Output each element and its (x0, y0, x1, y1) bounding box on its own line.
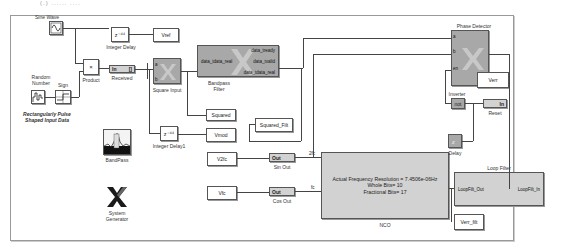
sin-out-gateway-block[interactable]: Out (269, 153, 295, 162)
wire (187, 71, 188, 115)
reset-label: Reset (488, 110, 501, 116)
wire (75, 63, 83, 64)
wire (313, 54, 451, 55)
vref-scope-block[interactable]: Vref (153, 28, 179, 42)
port-b: b (155, 77, 158, 82)
wire (445, 70, 446, 103)
wire (301, 68, 302, 141)
squared-filt-scope-block[interactable]: Squared_Filt (255, 118, 293, 132)
vmod-scope-block[interactable]: Vmod (206, 128, 236, 142)
wire (451, 188, 452, 222)
wire (71, 97, 79, 98)
random-number-label: Random Number (26, 74, 56, 86)
bandpass-filter-label: Bandpass Filter (204, 80, 234, 92)
wire (187, 115, 206, 116)
wire (129, 34, 153, 35)
random-signal-icon (32, 91, 44, 103)
wire (249, 124, 255, 125)
bandpass-filter-block[interactable]: data_tdata_real data_tready data_tvalid … (197, 45, 279, 77)
wire (79, 71, 83, 72)
wire (473, 103, 474, 141)
wire (75, 28, 76, 63)
system-generator-label: System Generator (100, 210, 134, 222)
integer-delay-label: Integer Delay (106, 44, 136, 50)
xilinx-logo-icon (460, 47, 486, 71)
squared-scope-block[interactable]: Squared (206, 109, 236, 121)
v2fc-scope-block[interactable]: V2fc (207, 152, 237, 166)
bpf-output-tdata: data_tdata_real (244, 70, 275, 75)
wire (489, 54, 509, 55)
received-label: Received (112, 75, 133, 81)
svg-text:z: z (451, 138, 455, 146)
product-block[interactable]: × (83, 59, 99, 75)
received-in-text: In (112, 66, 116, 72)
nco-port-2fc: 2fc (309, 151, 315, 156)
integer-delay1-label: Integer Delay1 (153, 143, 186, 149)
sign-label: Sign (58, 82, 68, 88)
nco-port-fc: fc (311, 185, 315, 190)
received-gateway-block[interactable]: In [] (109, 65, 135, 73)
loop-filter-label: Loop Filter (487, 165, 511, 171)
square-input-label: Square Input (153, 87, 182, 93)
nco-block[interactable]: Actual Frequency Resolution = 7.4506e-06… (321, 152, 449, 219)
delay-block[interactable]: z (448, 134, 462, 148)
square-input-block[interactable]: a b (153, 58, 181, 84)
pd-port-b: b (453, 49, 456, 54)
wire (149, 133, 160, 134)
integer-delay-block[interactable]: z⁻⁴⁴ (111, 27, 129, 42)
nco-fractional-bits: Fractional Bits= 17 (363, 189, 406, 196)
sign-function-icon (56, 91, 70, 103)
random-number-block[interactable] (31, 90, 45, 104)
wire (445, 70, 451, 71)
bandpass-spectrum-block[interactable] (103, 129, 131, 155)
top-caption-fragment: (.) ...... .... (40, 0, 81, 6)
wire (63, 28, 109, 29)
wire (237, 158, 269, 159)
integer-delay1-block[interactable]: z⁻⁴⁴ (160, 126, 178, 141)
wire (462, 141, 473, 142)
verr-scope-block[interactable]: Verr (477, 72, 509, 88)
sign-block[interactable] (55, 90, 71, 104)
wire (465, 103, 483, 104)
wire (181, 71, 197, 72)
nco-label: NCO (379, 222, 390, 228)
sine-wave-label: Sine Wave (35, 14, 59, 20)
phase-detector-label: Phase Detector (457, 23, 491, 29)
sine-wave-icon (50, 22, 62, 34)
wire (313, 54, 314, 158)
bpf-input-port: data_tdata_real (201, 59, 232, 64)
inverter-block[interactable]: not (451, 98, 465, 109)
cos-out-gateway-block[interactable]: Out (269, 187, 295, 196)
wire (303, 38, 304, 68)
pd-port-a: a (453, 34, 456, 39)
cos-out-label: Cos Out (273, 198, 291, 204)
wire (249, 141, 301, 142)
delay-z-icon: z (450, 136, 460, 146)
wire (178, 134, 206, 135)
bandpass-label: BandPass (106, 157, 129, 163)
wire (509, 54, 510, 189)
wire (147, 63, 148, 79)
vfc-scope-block[interactable]: Vfc (207, 186, 237, 200)
loop-filter-block[interactable]: LoopFilt_Out LoopFilt_In (454, 172, 544, 206)
inverter-label: Inverter (449, 91, 466, 97)
xilinx-logo-icon (158, 63, 178, 81)
bpf-output-tvalid: data_tvalid (253, 59, 275, 64)
bpf-output-tready: data_tready (251, 48, 275, 53)
wire (135, 69, 153, 70)
reset-gateway-block[interactable]: In (483, 99, 507, 108)
wire (279, 68, 303, 69)
sine-wave-block[interactable] (49, 21, 63, 35)
wire (45, 97, 55, 98)
loop-filter-in-port: LoopFilt_In (518, 187, 540, 192)
simulink-canvas: Sine Wave Random Number Sign Rectangular… (10, 15, 514, 241)
product-label: Product (82, 77, 99, 83)
wire (445, 103, 451, 104)
system-generator-block[interactable] (106, 186, 128, 208)
wire (303, 38, 451, 39)
port-a: a (155, 62, 158, 67)
wire (295, 191, 321, 192)
wire (249, 124, 250, 141)
loop-filter-out-port: LoopFilt_Out (458, 187, 484, 192)
verr-filt-scope-block[interactable]: Verr_filt (454, 214, 484, 230)
